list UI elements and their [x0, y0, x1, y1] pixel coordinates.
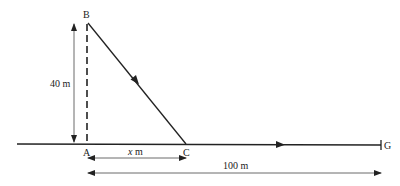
label-g: G [384, 140, 391, 151]
label-total: 100 m [223, 160, 249, 171]
label-height: 40 m [50, 78, 71, 89]
label-x-distance: x m [127, 146, 143, 157]
label-x-unit: m [132, 146, 143, 157]
path-bc [88, 23, 186, 144]
label-a: A [83, 147, 91, 158]
diagram-canvas: B A C G 40 m x m 100 m [0, 0, 400, 186]
label-b: B [83, 9, 90, 20]
label-c: C [183, 147, 190, 158]
ground-direction-arrow-icon [276, 141, 285, 148]
ground-line [17, 144, 381, 145]
